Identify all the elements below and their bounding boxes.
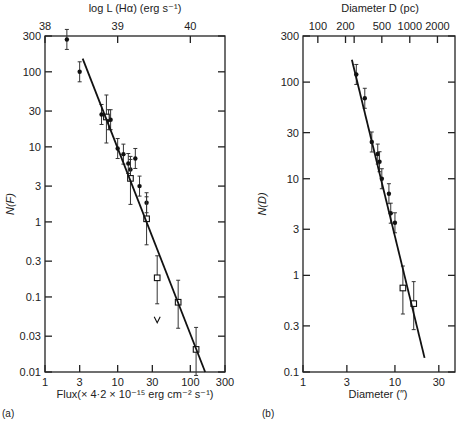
top-tick-label: 40 bbox=[184, 20, 196, 32]
top-tick-label: 1000 bbox=[398, 20, 422, 32]
x-tick-label: 30 bbox=[146, 376, 158, 388]
y-tick-label: 30 bbox=[29, 105, 41, 117]
plot-frame bbox=[303, 36, 455, 372]
x-tick-label: 1 bbox=[42, 376, 48, 388]
y-tick-label: 3 bbox=[293, 223, 299, 235]
data-point-filled bbox=[65, 37, 69, 41]
x-tick-label: 3 bbox=[77, 376, 83, 388]
top-tick-label: 38 bbox=[39, 20, 51, 32]
top-tick-label: 200 bbox=[336, 20, 354, 32]
fit-line bbox=[83, 59, 205, 372]
x-tick-label: 1 bbox=[300, 376, 306, 388]
data-point-filled bbox=[393, 221, 397, 225]
data-point-filled bbox=[363, 96, 367, 100]
y-tick-label: 1 bbox=[35, 216, 41, 228]
y-tick-label: 10 bbox=[29, 141, 41, 153]
top-tick-label: 2000 bbox=[425, 20, 449, 32]
x-tick-label: 10 bbox=[112, 376, 124, 388]
data-point-open bbox=[400, 285, 406, 291]
x-tick-label: 3 bbox=[344, 376, 350, 388]
data-point-open bbox=[154, 275, 160, 281]
figure: 1310301003000.010.030.10.313103010030038… bbox=[0, 0, 465, 427]
panel-a: 1310301003000.010.030.10.313103010030038… bbox=[20, 20, 235, 388]
panel-b-top-title: Diameter D (pc) bbox=[341, 2, 419, 14]
panel-b-label: (b) bbox=[262, 408, 274, 419]
y-tick-label: 0.3 bbox=[26, 255, 41, 267]
data-point-filled bbox=[77, 70, 81, 74]
panel-a-top-title: log L (Hα) (erg s⁻¹) bbox=[89, 2, 182, 14]
data-point-filled bbox=[387, 192, 391, 196]
data-point-filled bbox=[133, 156, 137, 160]
y-tick-label: 100 bbox=[281, 76, 299, 88]
data-point-filled bbox=[121, 152, 125, 156]
plot-frame bbox=[45, 36, 225, 372]
data-point-filled bbox=[137, 184, 141, 188]
panel-a-label: (a) bbox=[2, 408, 14, 419]
y-tick-label: 0.01 bbox=[20, 366, 41, 378]
top-tick-label: 500 bbox=[373, 20, 391, 32]
y-tick-label: 100 bbox=[23, 66, 41, 78]
y-tick-label: 1 bbox=[293, 269, 299, 281]
panel-b-y-title: N(D) bbox=[256, 192, 268, 216]
y-tick-label: 10 bbox=[287, 173, 299, 185]
y-tick-label: 3 bbox=[35, 180, 41, 192]
panel-a-y-title: N(F) bbox=[4, 193, 16, 215]
panel-b-x-title: Diameter (″) bbox=[349, 388, 408, 400]
x-tick-label: 30 bbox=[433, 376, 445, 388]
y-tick-label: 0.3 bbox=[284, 320, 299, 332]
y-tick-label: 300 bbox=[281, 30, 299, 42]
top-tick-label: 39 bbox=[112, 20, 124, 32]
panel-a-x-title: Flux(× 4·2 × 10⁻¹⁵ erg cm⁻² s⁻¹) bbox=[56, 388, 213, 400]
top-tick-label: 100 bbox=[309, 20, 327, 32]
upper-limit-arrow-icon bbox=[154, 317, 160, 323]
y-tick-label: 30 bbox=[287, 127, 299, 139]
fit-line bbox=[352, 60, 425, 358]
y-tick-label: 0.1 bbox=[26, 291, 41, 303]
x-tick-label: 300 bbox=[216, 376, 234, 388]
y-tick-label: 0.1 bbox=[284, 366, 299, 378]
y-tick-label: 0.03 bbox=[20, 330, 41, 342]
panel-b: 1310300.10.31310301003001002005001000200… bbox=[281, 20, 455, 388]
data-point-filled bbox=[126, 161, 130, 165]
x-tick-label: 100 bbox=[181, 376, 199, 388]
x-tick-label: 10 bbox=[389, 376, 401, 388]
